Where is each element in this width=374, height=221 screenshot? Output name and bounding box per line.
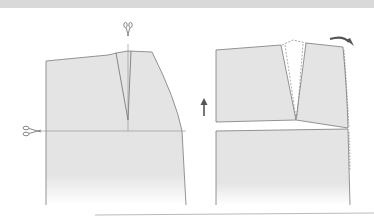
scissors-icon-left bbox=[23, 126, 41, 136]
bottom-rule bbox=[95, 213, 374, 215]
curved-arrow-icon bbox=[330, 38, 354, 46]
right-pattern-bottom-piece bbox=[216, 129, 350, 205]
left-pattern-piece bbox=[38, 44, 186, 205]
scissors-icon-top bbox=[124, 22, 132, 36]
dart-dashed-top bbox=[282, 40, 306, 45]
up-arrow-icon bbox=[201, 98, 208, 116]
right-pattern-top-piece bbox=[216, 40, 349, 128]
pattern-diagram bbox=[0, 0, 374, 221]
